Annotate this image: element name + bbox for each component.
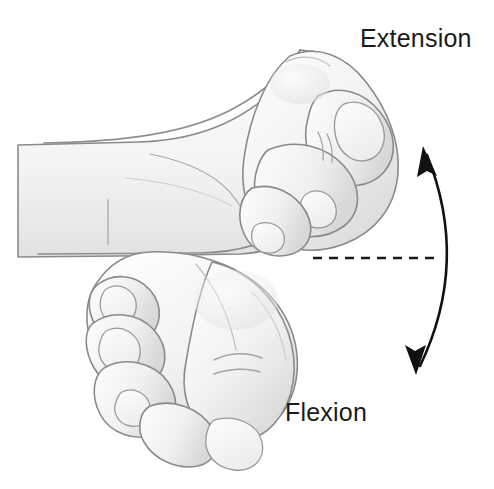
range-of-motion-arrowhead-up [417,146,437,177]
wrist-range-of-motion-illustration: Extension Flexion [0,0,494,489]
range-of-motion-arc [420,155,447,366]
flexion-label: Flexion [285,400,367,425]
annotation-layer [0,0,494,489]
extension-label: Extension [360,26,472,51]
